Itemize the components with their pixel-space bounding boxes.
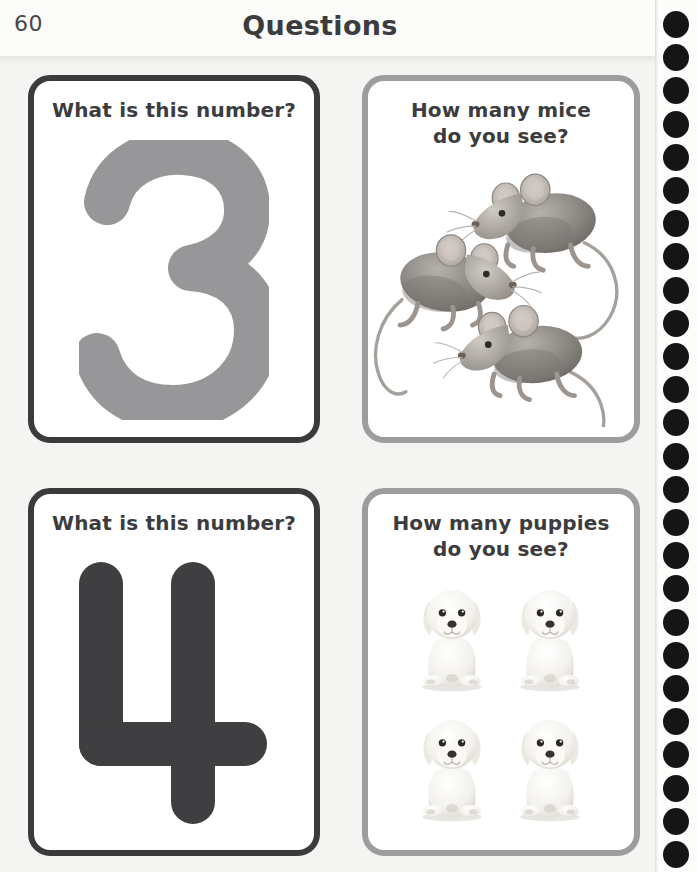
spiral-binding-hole	[663, 808, 689, 835]
question-card-number-three[interactable]: What is this number?	[28, 75, 320, 443]
puppy-illustration	[404, 698, 500, 826]
spiral-binding-hole	[663, 409, 689, 436]
card-title: What is this number?	[34, 97, 314, 123]
puppy-cell	[404, 698, 500, 826]
puppy-illustration	[502, 698, 598, 826]
spiral-binding-hole	[663, 642, 689, 669]
puppy-illustration	[404, 568, 500, 696]
spiral-binding-hole	[663, 741, 689, 768]
spiral-binding-hole	[663, 210, 689, 237]
spiral-binding-hole	[663, 376, 689, 403]
spiral-binding-hole	[663, 841, 689, 868]
spiral-binding-hole	[663, 111, 689, 138]
spiral-binding-hole	[663, 509, 689, 536]
spiral-binding-hole	[663, 310, 689, 337]
card-body	[34, 133, 314, 427]
spiral-binding-hole	[663, 708, 689, 735]
digit-four-glyph	[69, 558, 279, 828]
question-card-number-four[interactable]: What is this number?	[28, 488, 320, 856]
card-title: What is this number?	[34, 510, 314, 536]
question-card-grid: What is this number? How many mice do yo…	[0, 63, 655, 872]
puppies-illustration-grid	[368, 546, 634, 840]
puppy-cell	[404, 568, 500, 696]
puppy-cell	[502, 698, 598, 826]
spiral-binding-hole	[663, 609, 689, 636]
mice-illustration-stage	[368, 133, 634, 427]
spiral-binding-hole	[663, 675, 689, 702]
card-body	[34, 546, 314, 840]
numeral-four-display	[34, 546, 314, 840]
spiral-binding-hole	[663, 243, 689, 270]
spiral-binding-hole	[663, 542, 689, 569]
spiral-binding-hole	[663, 343, 689, 370]
header-divider	[0, 56, 655, 63]
card-body	[368, 133, 634, 427]
question-card-count-mice[interactable]: How many mice do you see?	[362, 75, 640, 443]
spiral-binding-hole	[663, 775, 689, 802]
puppy-illustration	[502, 568, 598, 696]
spiral-binding-hole	[663, 575, 689, 602]
puppy-cell	[502, 568, 598, 696]
spiral-binding-hole	[663, 277, 689, 304]
numeral-three-display	[34, 133, 314, 427]
spiral-binding-hole	[663, 177, 689, 204]
digit-three-glyph	[79, 140, 269, 420]
mouse-illustration	[433, 305, 603, 427]
spiral-binding-strip	[655, 0, 697, 872]
card-body	[368, 546, 634, 840]
spiral-binding-hole	[663, 44, 689, 71]
spiral-binding-hole	[663, 443, 689, 470]
spiral-binding-hole	[663, 144, 689, 171]
binding-page-edge	[655, 0, 658, 872]
spiral-binding-hole	[663, 476, 689, 503]
page-header: 60 Questions	[0, 0, 655, 58]
workbook-page: 60 Questions What is this number? How ma…	[0, 0, 697, 872]
question-card-count-puppies[interactable]: How many puppies do you see?	[362, 488, 640, 856]
page-title: Questions	[0, 10, 640, 41]
spiral-binding-hole	[663, 11, 689, 38]
spiral-binding-hole	[663, 77, 689, 104]
